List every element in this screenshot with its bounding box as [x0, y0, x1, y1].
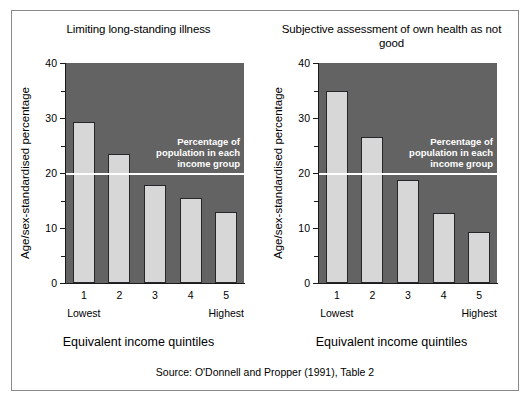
y-axis-line: [65, 63, 66, 284]
chart-panels: Limiting long-standing illness Age/sex-s…: [12, 11, 518, 339]
y-tick-label: 20: [298, 168, 310, 179]
y-tick-minor: [61, 91, 65, 92]
x-axis-lowest-label: Lowest: [320, 307, 353, 319]
source-note: Source: O'Donnell and Propper (1991), Ta…: [12, 366, 518, 378]
bar: [326, 91, 348, 284]
reference-line: [319, 173, 497, 175]
reference-line: [66, 173, 244, 175]
y-tick-label: 40: [298, 58, 310, 69]
x-tick-label: 2: [369, 289, 375, 301]
x-axis-title: Equivalent income quintiles: [265, 335, 518, 349]
y-tick-major: [60, 228, 65, 229]
bar: [180, 198, 202, 283]
plot-wrapper: Percentage of population in each income …: [319, 63, 497, 283]
plot-wrapper: Percentage of population in each income …: [66, 63, 244, 283]
bar: [73, 122, 95, 283]
x-tick-label: 5: [476, 289, 482, 301]
y-tick-label: 10: [45, 223, 57, 234]
chart-panel-subjective-assessment-of-own-health: Subjective assessment of own health as n…: [265, 11, 518, 339]
y-axis-title: Age/sex-standardised percentage: [271, 63, 285, 283]
x-tick-label: 3: [152, 289, 158, 301]
reference-line-label: Percentage of population in each income …: [409, 136, 493, 169]
x-axis-highest-label: Highest: [208, 307, 244, 319]
y-tick-major: [60, 173, 65, 174]
y-tick-minor: [314, 91, 318, 92]
y-axis-line: [318, 63, 319, 284]
y-tick-minor: [61, 256, 65, 257]
y-tick-minor: [314, 201, 318, 202]
x-tick-label: 1: [81, 289, 87, 301]
y-tick-major: [60, 63, 65, 64]
y-tick-label: 0: [304, 278, 310, 289]
x-axis-lowest-label: Lowest: [67, 307, 100, 319]
x-tick-label: 5: [223, 289, 229, 301]
y-tick-label: 10: [298, 223, 310, 234]
y-tick-label: 30: [45, 113, 57, 124]
y-tick-major: [60, 283, 65, 284]
y-tick-minor: [61, 146, 65, 147]
y-tick-label: 30: [298, 113, 310, 124]
chart-title: Subjective assessment of own health as n…: [273, 22, 510, 50]
x-axis-line: [65, 283, 245, 284]
reference-line-label: Percentage of population in each income …: [156, 136, 240, 169]
y-axis-title-label: Age/sex-standardised percentage: [272, 87, 284, 259]
x-tick-label: 4: [441, 289, 447, 301]
chart-panel-limiting-long-standing-illness: Limiting long-standing illness Age/sex-s…: [12, 11, 265, 339]
x-axis-title: Equivalent income quintiles: [12, 335, 265, 349]
x-tick-label: 1: [334, 289, 340, 301]
x-tick-label: 2: [116, 289, 122, 301]
bar: [215, 212, 237, 284]
x-tick-label: 4: [188, 289, 194, 301]
y-tick-label: 0: [51, 278, 57, 289]
y-tick-label: 20: [45, 168, 57, 179]
figure-frame: Limiting long-standing illness Age/sex-s…: [11, 10, 519, 391]
x-tick-label: 3: [405, 289, 411, 301]
plot-area: Percentage of population in each income …: [66, 63, 244, 283]
y-tick-major: [313, 118, 318, 119]
bar: [468, 232, 490, 283]
y-tick-minor: [314, 256, 318, 257]
y-tick-major: [313, 228, 318, 229]
y-axis-title: Age/sex-standardised percentage: [18, 63, 32, 283]
bar: [433, 213, 455, 283]
y-tick-major: [313, 173, 318, 174]
x-axis-highest-label: Highest: [461, 307, 497, 319]
bar: [397, 180, 419, 283]
bar: [144, 185, 166, 283]
x-axis-line: [318, 283, 498, 284]
y-tick-minor: [314, 146, 318, 147]
bar: [361, 137, 383, 283]
chart-title: Limiting long-standing illness: [20, 22, 257, 36]
y-tick-minor: [61, 201, 65, 202]
y-tick-major: [313, 63, 318, 64]
y-tick-major: [60, 118, 65, 119]
plot-area: Percentage of population in each income …: [319, 63, 497, 283]
y-tick-label: 40: [45, 58, 57, 69]
y-axis-title-label: Age/sex-standardised percentage: [19, 87, 31, 259]
y-tick-major: [313, 283, 318, 284]
